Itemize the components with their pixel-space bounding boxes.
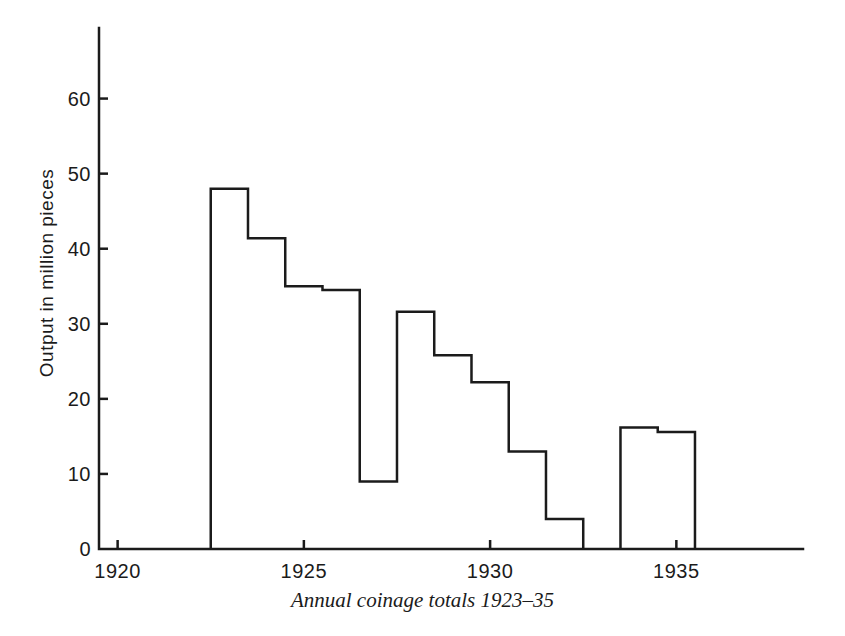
output-step-series (211, 189, 583, 549)
x-tick-label: 1920 (94, 560, 141, 582)
step-chart-canvas: 01020304050601920192519301935 (0, 0, 845, 636)
x-tick-label: 1925 (281, 560, 328, 582)
y-tick-label: 30 (68, 313, 91, 335)
y-tick-label: 40 (68, 238, 91, 260)
y-tick-label: 60 (68, 88, 91, 110)
output-step-series (620, 427, 694, 549)
y-tick-label: 20 (68, 388, 91, 410)
scanned-chart-page: 01020304050601920192519301935 Output in … (0, 0, 845, 636)
y-tick-label: 50 (68, 163, 91, 185)
coinage-chart-figure: 01020304050601920192519301935 Output in … (0, 0, 845, 636)
x-tick-label: 1935 (653, 560, 700, 582)
y-tick-label: 0 (79, 538, 91, 560)
axes (99, 28, 803, 549)
y-axis-title: Output in million pieces (36, 169, 58, 377)
chart-caption: Annual coinage totals 1923–35 (0, 588, 845, 613)
x-tick-label: 1930 (467, 560, 514, 582)
y-tick-label: 10 (68, 463, 91, 485)
